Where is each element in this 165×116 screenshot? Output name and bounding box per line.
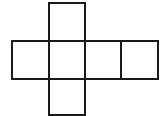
face-middle-2 xyxy=(48,40,86,80)
face-top xyxy=(48,2,86,42)
face-middle-1 xyxy=(11,40,50,80)
face-bottom xyxy=(48,78,86,116)
face-middle-4 xyxy=(120,40,159,80)
cube-net-diagram xyxy=(0,0,165,116)
face-middle-3 xyxy=(84,40,122,80)
